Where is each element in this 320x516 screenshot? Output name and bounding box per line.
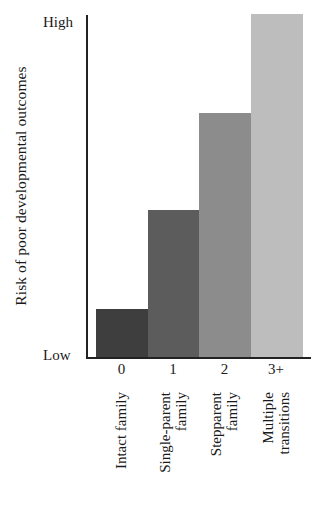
bar-1	[96, 309, 148, 357]
bar-4	[251, 14, 303, 357]
category-description-line: family	[225, 392, 241, 516]
y-tick-high: High	[43, 14, 73, 31]
bar-3	[199, 113, 251, 357]
category-description: Stepparentfamily	[209, 392, 240, 516]
category-description-line: Single-parent	[158, 392, 174, 516]
x-tick-label: 0	[96, 361, 147, 378]
y-axis-title: Risk of poor developmental outcomes	[12, 66, 30, 305]
category-description-line: Intact family	[114, 392, 130, 516]
bar-2	[148, 210, 200, 357]
category-description: Single-parentfamily	[158, 392, 189, 516]
category-description: Intact family	[114, 392, 130, 516]
category-description: Multipletransitions	[261, 392, 292, 516]
x-axis-line	[86, 357, 311, 359]
category-description-line: transitions	[276, 392, 292, 516]
category-description-line: Multiple	[261, 392, 277, 516]
y-tick-low: Low	[43, 347, 71, 364]
y-axis-line	[86, 15, 88, 358]
category-description-line: Stepparent	[209, 392, 225, 516]
x-tick-label: 1	[148, 361, 199, 378]
category-description-line: family	[173, 392, 189, 516]
x-tick-label: 3+	[251, 361, 302, 378]
x-tick-label: 2	[199, 361, 250, 378]
